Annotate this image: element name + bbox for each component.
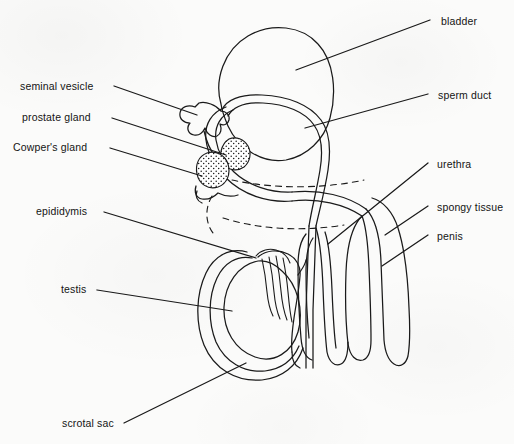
label-urethra-text: urethra bbox=[437, 158, 471, 170]
male-reproductive-system-diagram bbox=[0, 0, 514, 444]
label-seminal-vesicle: seminal vesicle bbox=[20, 81, 93, 92]
leader-scrotal-sac bbox=[124, 363, 246, 423]
epididymis-outline bbox=[258, 251, 300, 352]
urethra-bend-outer bbox=[298, 234, 312, 360]
label-bladder: bladder bbox=[441, 16, 477, 27]
leader-seminal-vesicle bbox=[114, 86, 197, 115]
urethra-channel-inner bbox=[325, 232, 336, 348]
label-cowpers-gland-text: Cowper's gland bbox=[13, 141, 87, 153]
label-spongy-tissue-text: spongy tissue bbox=[437, 201, 503, 213]
label-bladder-text: bladder bbox=[441, 15, 477, 27]
cowpers-gland-fill bbox=[196, 152, 228, 188]
label-prostate-gland: prostate gland bbox=[22, 112, 91, 123]
scrotal-sac-outline bbox=[198, 251, 303, 381]
leader-epididymis bbox=[104, 212, 256, 258]
label-testis-text: testis bbox=[61, 283, 86, 295]
epididymis-convolution-3 bbox=[276, 256, 287, 320]
label-sperm-duct-text: sperm duct bbox=[438, 89, 491, 101]
label-epididymis-text: epididymis bbox=[36, 205, 87, 217]
diagram-page: seminal vesicle prostate gland Cowper's … bbox=[0, 0, 514, 444]
testis-outline bbox=[224, 261, 300, 359]
pelvis-dashed-arc-left bbox=[207, 196, 213, 233]
label-seminal-vesicle-text: seminal vesicle bbox=[20, 80, 93, 92]
leader-prostate-gland bbox=[112, 118, 226, 155]
label-penis-text: penis bbox=[437, 230, 463, 242]
gland-duct-lower bbox=[196, 191, 202, 203]
body-contour-upper bbox=[292, 200, 362, 216]
label-penis: penis bbox=[437, 231, 463, 242]
leader-spongy-tissue bbox=[385, 206, 428, 235]
leader-urethra bbox=[328, 163, 428, 244]
label-urethra: urethra bbox=[437, 159, 471, 170]
penis-inner-left bbox=[346, 216, 371, 360]
label-testis: testis bbox=[61, 284, 86, 295]
label-sperm-duct: sperm duct bbox=[438, 90, 491, 101]
label-prostate-gland-text: prostate gland bbox=[22, 111, 91, 123]
label-cowpers-gland: Cowper's gland bbox=[13, 142, 87, 153]
label-scrotal-sac-text: scrotal sac bbox=[62, 417, 114, 429]
pelvis-dashed-lower bbox=[223, 218, 344, 229]
leader-sperm-duct bbox=[305, 94, 428, 128]
label-epididymis: epididymis bbox=[36, 206, 87, 217]
sperm-duct-descending-right bbox=[313, 226, 316, 368]
label-spongy-tissue: spongy tissue bbox=[437, 202, 503, 213]
gland-duct-flange bbox=[195, 186, 238, 199]
leader-bladder bbox=[296, 20, 430, 70]
label-scrotal-sac: scrotal sac bbox=[62, 418, 114, 429]
leader-cowpers-gland bbox=[110, 148, 202, 176]
